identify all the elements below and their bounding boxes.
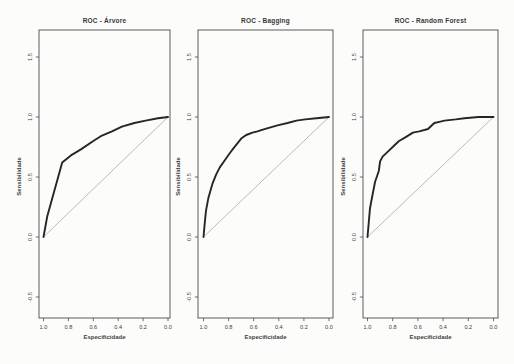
y-tick-label-0: 1.0 xyxy=(27,113,33,121)
y-tick-label-1: -0.5 xyxy=(186,292,192,302)
roc-charts-canvas: 1.00.80.60.40.20.0-0.50.00.51.01.51.00.8… xyxy=(0,0,514,364)
y-tick-label-0: -0.5 xyxy=(27,292,33,302)
x-tick-label-2: 1.0 xyxy=(364,324,372,330)
y-tick-label-2: 0.5 xyxy=(351,173,357,181)
x-tick-label-1: 0.6 xyxy=(250,324,258,330)
chance-diagonal-1 xyxy=(204,117,330,237)
plot-box-1 xyxy=(198,30,333,318)
y-tick-label-0: 0.5 xyxy=(27,173,33,181)
x-axis-title-3: Especificidade xyxy=(363,334,498,343)
y-axis-title-3: Sensibilidade xyxy=(340,117,349,237)
y-tick-label-2: -0.5 xyxy=(351,292,357,302)
y-axis-title-1: Sensibilidade xyxy=(16,117,25,237)
x-tick-label-0: 0.8 xyxy=(65,324,73,330)
y-tick-label-0: 1.5 xyxy=(27,53,33,61)
y-tick-label-2: 0.0 xyxy=(351,233,357,241)
x-tick-label-1: 1.0 xyxy=(200,324,208,330)
chart-title-bagging: ROC - Bagging xyxy=(198,17,333,27)
x-axis-title-1: Especificidade xyxy=(39,334,170,343)
x-tick-label-1: 0.0 xyxy=(325,324,333,330)
y-tick-label-1: 0.5 xyxy=(186,173,192,181)
y-tick-label-0: 0.0 xyxy=(27,233,33,241)
x-tick-label-0: 0.4 xyxy=(114,324,122,330)
x-tick-label-2: 0.0 xyxy=(490,324,498,330)
x-tick-label-0: 0.6 xyxy=(89,324,97,330)
x-tick-label-0: 1.0 xyxy=(40,324,48,330)
y-tick-label-2: 1.5 xyxy=(351,53,357,61)
x-tick-label-1: 0.4 xyxy=(275,324,283,330)
x-tick-label-2: 0.2 xyxy=(464,324,472,330)
chart-title-arvore: ROC - Árvore xyxy=(39,17,170,27)
x-tick-label-2: 0.8 xyxy=(389,324,397,330)
x-tick-label-0: 0.2 xyxy=(139,324,147,330)
chart-title-random-forest: ROC - Random Forest xyxy=(363,17,498,27)
x-tick-label-1: 0.2 xyxy=(300,324,308,330)
roc-comparison-figure: 1.00.80.60.40.20.0-0.50.00.51.01.51.00.8… xyxy=(0,0,514,364)
y-tick-label-1: 1.5 xyxy=(186,53,192,61)
x-tick-label-1: 0.8 xyxy=(225,324,233,330)
x-axis-title-2: Especificidade xyxy=(198,334,333,343)
chance-diagonal-2 xyxy=(368,117,494,237)
y-tick-label-2: 1.0 xyxy=(351,113,357,121)
x-tick-label-2: 0.4 xyxy=(439,324,447,330)
plot-box-2 xyxy=(363,30,498,318)
y-axis-title-2: Sensibilidade xyxy=(175,117,184,237)
x-tick-label-0: 0.0 xyxy=(164,324,172,330)
x-tick-label-2: 0.6 xyxy=(414,324,422,330)
y-tick-label-1: 1.0 xyxy=(186,113,192,121)
y-tick-label-1: 0.0 xyxy=(186,233,192,241)
